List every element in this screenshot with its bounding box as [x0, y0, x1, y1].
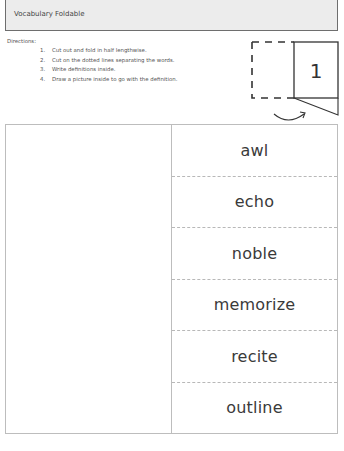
- header-box: Vocabulary Foldable: [5, 0, 338, 31]
- directions-label: Directions:: [7, 38, 36, 44]
- word-tab-outline: outline: [172, 383, 337, 434]
- vocabulary-foldable: awl echo noble memorize recite outline: [5, 124, 338, 434]
- word-tab-memorize: memorize: [172, 280, 337, 332]
- page-title: Vocabulary Foldable: [14, 10, 84, 18]
- directions-list: 1.Cut out and fold in half lengthwise. 2…: [40, 46, 177, 84]
- direction-step: 1.Cut out and fold in half lengthwise.: [40, 46, 177, 56]
- fold-diagram: 1: [248, 36, 344, 122]
- direction-step: 2.Cut on the dotted lines separating the…: [40, 56, 177, 66]
- word-panel: awl echo noble memorize recite outline: [172, 125, 337, 433]
- word-tab-recite: recite: [172, 331, 337, 383]
- fold-diagram-icon: 1: [248, 36, 344, 122]
- svg-text:1: 1: [310, 59, 323, 83]
- word-tab-noble: noble: [172, 228, 337, 280]
- direction-step: 3.Write definitions inside.: [40, 65, 177, 75]
- definition-panel: [6, 125, 172, 433]
- word-tab-awl: awl: [172, 125, 337, 177]
- direction-step: 4.Draw a picture inside to go with the d…: [40, 75, 177, 85]
- word-tab-echo: echo: [172, 177, 337, 229]
